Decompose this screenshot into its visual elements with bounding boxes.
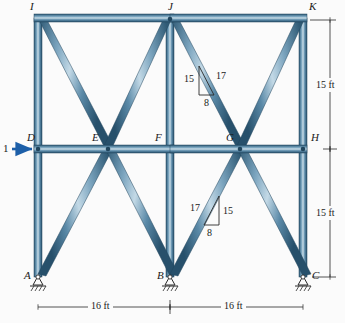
truss-middle-chord: [34, 145, 307, 153]
joint-label-A: A: [24, 270, 31, 281]
joint-label-I: I: [30, 1, 34, 12]
truss-diagonals-upper-left: [39, 20, 171, 152]
load-label: 1: [3, 143, 9, 154]
joint-label-J: J: [168, 1, 173, 12]
member-I-J: [34, 14, 174, 22]
joint-pin-D: [36, 147, 41, 152]
support-A: [30, 275, 46, 291]
support-C: [295, 275, 311, 291]
slope-upper-hyp-label: 17: [216, 71, 226, 81]
joint-pin-H: [301, 147, 306, 152]
figure-canvas: I J K D E F G H A B C 1 15 17 8 17 15 8 …: [0, 0, 345, 323]
dimension-label-bottom-left: 16 ft: [88, 301, 113, 311]
joint-pin-E: [106, 147, 111, 152]
dimension-label-right-upper: 15 ft: [316, 78, 335, 92]
slope-upper-run-label: 8: [204, 98, 209, 108]
member-K-G: [235, 20, 304, 152]
member-I-E: [39, 20, 115, 152]
truss-diagonals-upper-right: [171, 20, 304, 152]
slope-lower-run-label: 8: [207, 228, 212, 238]
slope-triangle-upper: [199, 66, 214, 95]
member-J-K: [170, 14, 307, 22]
slope-upper-rise-label: 15: [184, 74, 194, 84]
dimension-label-right-lower: 15 ft: [316, 206, 335, 220]
joint-pin-J: [168, 17, 173, 22]
slope-lower-rise-label: 15: [223, 206, 233, 216]
joint-label-B: B: [157, 270, 164, 281]
joint-label-H: H: [311, 132, 319, 143]
joint-pin-G: [238, 147, 243, 152]
joint-label-G: G: [226, 132, 234, 143]
truss-diagram: [0, 0, 345, 323]
support-B: [162, 275, 178, 291]
joint-label-C: C: [312, 270, 319, 281]
member-E-A: [38, 148, 112, 276]
slope-lower-hyp-label: 17: [190, 203, 200, 213]
joint-label-E: E: [92, 132, 99, 143]
dimension-label-bottom-right: 16 ft: [221, 301, 246, 311]
member-D-F: [34, 145, 174, 153]
joint-label-F: F: [155, 132, 162, 143]
truss-diagonals-lower-left: [38, 148, 178, 276]
joint-label-D: D: [27, 132, 35, 143]
joint-label-K: K: [309, 1, 316, 12]
